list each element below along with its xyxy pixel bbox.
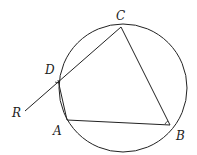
label-R: R [11, 106, 21, 120]
label-C: C [116, 9, 125, 23]
segment-DA [58, 80, 67, 120]
label-D: D [44, 63, 55, 77]
angle-mark-B [165, 121, 168, 124]
circle [59, 24, 187, 152]
segment-AB [67, 120, 170, 125]
label-B: B [175, 129, 185, 143]
geometry-diagram: C D A B R [0, 0, 197, 155]
line-CR [25, 27, 121, 111]
segment-BC [121, 27, 170, 125]
label-A: A [52, 124, 62, 138]
